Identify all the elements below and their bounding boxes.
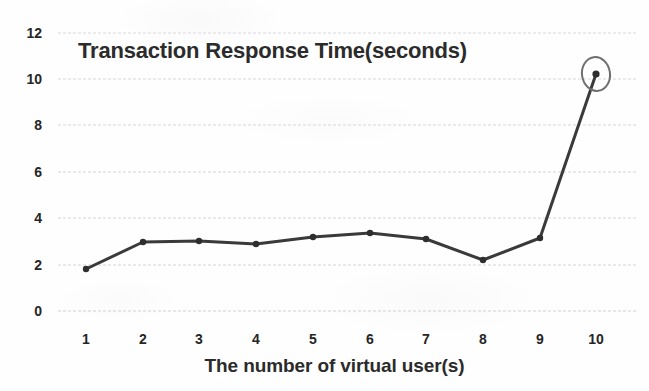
y-axis-tick-12: 12: [8, 25, 42, 41]
x-axis-tick-10: 10: [576, 331, 616, 347]
gridlines: [58, 33, 638, 311]
x-axis-tick-9: 9: [520, 331, 560, 347]
x-axis-tick-5: 5: [293, 331, 333, 347]
y-axis-tick-4: 4: [8, 210, 42, 226]
x-axis-title: The number of virtual user(s): [0, 355, 649, 377]
x-axis-tick-6: 6: [350, 331, 390, 347]
y-axis-tick-6: 6: [8, 164, 42, 180]
x-axis-tick-8: 8: [463, 331, 503, 347]
x-axis-tick-3: 3: [179, 331, 219, 347]
chart-screenshot: Transaction Response Time(seconds) 12 10…: [0, 0, 649, 391]
x-axis-tick-4: 4: [236, 331, 276, 347]
y-axis-tick-10: 10: [8, 71, 42, 87]
y-axis-tick-2: 2: [8, 257, 42, 273]
chart-title: Transaction Response Time(seconds): [78, 38, 467, 64]
y-axis-tick-8: 8: [8, 117, 42, 133]
x-axis-tick-2: 2: [123, 331, 163, 347]
x-axis-tick-1: 1: [66, 331, 106, 347]
y-axis-tick-0: 0: [8, 303, 42, 319]
x-axis-tick-7: 7: [406, 331, 446, 347]
